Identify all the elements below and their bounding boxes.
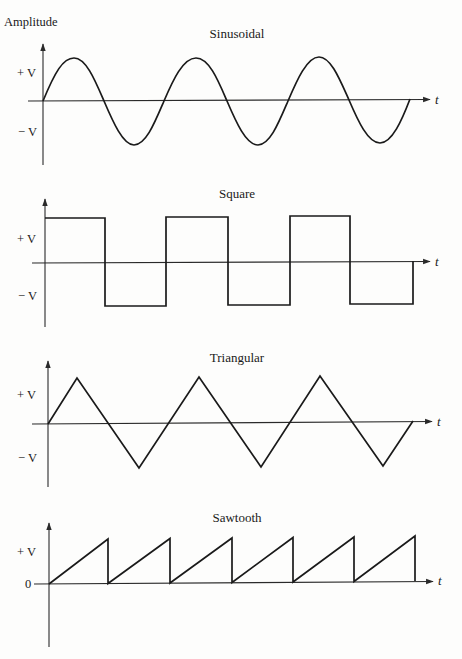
panel-square: Square t + V − V (17, 186, 439, 327)
square-wave (45, 216, 413, 306)
waveform-diagram: Amplitude Sinusoidal t + V − V Square t … (0, 0, 462, 659)
waveform-figure: Amplitude Sinusoidal t + V − V Square t … (0, 0, 462, 659)
panel-sawtooth: Sawtooth t + V 0 (17, 510, 442, 647)
x-axis (28, 100, 430, 102)
upper-level-label: + V (17, 232, 36, 246)
x-axis-label: t (438, 573, 442, 588)
panel-triangular: Triangular t + V − V (17, 350, 441, 487)
lower-level-label: − V (18, 451, 37, 465)
panel-title: Triangular (210, 350, 265, 365)
y-axis-label: Amplitude (4, 15, 58, 29)
sawtooth-wave (49, 536, 415, 584)
x-axis-label: t (435, 92, 439, 107)
panel-sinusoidal: Sinusoidal t + V − V (17, 26, 439, 165)
lower-level-label: − V (18, 125, 37, 139)
panel-title: Sawtooth (212, 510, 262, 525)
panel-title: Sinusoidal (210, 26, 265, 41)
upper-level-label: + V (17, 66, 36, 80)
x-axis-label: t (435, 254, 439, 269)
x-axis (32, 262, 430, 264)
upper-level-label: + V (17, 545, 36, 559)
upper-level-label: + V (17, 388, 36, 402)
zero-level-label: 0 (25, 577, 31, 591)
lower-level-label: − V (18, 289, 37, 303)
panel-title: Square (219, 186, 255, 201)
x-axis-label: t (437, 414, 441, 429)
